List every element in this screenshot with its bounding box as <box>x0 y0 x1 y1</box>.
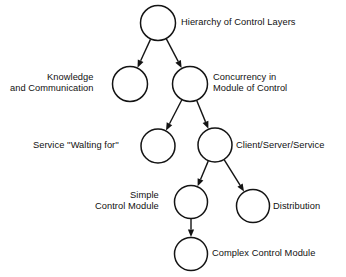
node-label-line: Complex Control Module <box>212 248 315 259</box>
node-label-service: Service ''Walting for'' <box>33 140 119 151</box>
node-label-line: Service ''Walting for'' <box>33 140 119 151</box>
edge-line <box>224 160 240 185</box>
node-circle-concurrency[interactable] <box>173 67 208 102</box>
edge-hierarchy-to-concurrency <box>166 39 181 68</box>
edge-line <box>197 101 206 122</box>
edge-client-server-to-distribution <box>224 160 244 192</box>
diagram-graphics <box>0 0 346 277</box>
node-label-complex-control-module: Complex Control Module <box>212 248 315 259</box>
node-label-concurrency: Concurrency inModule of Control <box>213 72 287 95</box>
node-label-line: Simple <box>95 190 159 201</box>
node-label-line: Control Module <box>95 201 159 212</box>
node-label-distribution: Distribution <box>273 201 320 212</box>
node-label-line: Concurrency in <box>213 72 287 83</box>
edge-line <box>169 100 181 124</box>
arrowhead-icon <box>203 121 209 129</box>
edge-line <box>201 161 209 179</box>
node-circle-service[interactable] <box>141 129 175 163</box>
edge-line <box>141 39 151 60</box>
edge-simple-to-complex <box>188 219 194 237</box>
node-circle-client-server[interactable] <box>198 128 232 162</box>
node-label-hierarchy: Hierarchy of Control Layers <box>181 17 296 28</box>
node-label-line: Distribution <box>273 201 320 212</box>
edge-client-server-to-simple <box>198 161 209 186</box>
node-circle-simple-control-module[interactable] <box>175 186 208 219</box>
node-circle-distribution[interactable] <box>237 190 270 223</box>
node-label-client-server: Client/Server/Service <box>236 140 324 151</box>
arrowhead-icon <box>138 60 144 68</box>
node-label-line: Knowledge <box>10 72 94 83</box>
node-label-line: Client/Server/Service <box>236 140 324 151</box>
node-label-knowledge: Knowledgeand Communication <box>10 72 94 95</box>
node-label-simple-control-module: SimpleControl Module <box>95 190 159 213</box>
node-label-line: and Communication <box>10 83 94 94</box>
arrowhead-icon <box>198 178 204 186</box>
edge-concurrency-to-service <box>166 100 182 130</box>
node-circle-knowledge[interactable] <box>113 67 148 102</box>
arrowhead-icon <box>237 184 244 192</box>
node-circle-complex-control-module[interactable] <box>175 238 208 271</box>
edge-hierarchy-to-knowledge <box>138 39 151 67</box>
node-label-line: Module of Control <box>213 83 287 94</box>
edge-concurrency-to-client-server <box>197 101 209 129</box>
node-circle-hierarchy[interactable] <box>141 6 176 41</box>
arrowhead-icon <box>188 230 194 238</box>
node-label-line: Hierarchy of Control Layers <box>181 17 296 28</box>
diagram-canvas: Hierarchy of Control LayersKnowledgeand … <box>0 0 346 277</box>
edge-line <box>166 39 178 61</box>
